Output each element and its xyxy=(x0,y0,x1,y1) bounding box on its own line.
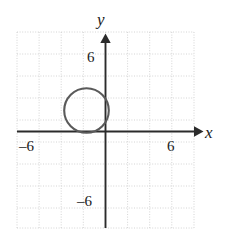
coordinate-plane xyxy=(0,0,225,237)
x-tick-label-negative-six: –6 xyxy=(19,139,34,154)
y-tick-label-positive-six: 6 xyxy=(87,50,95,65)
plotted-circle xyxy=(64,88,109,133)
y-axis-arrowhead xyxy=(100,34,110,44)
y-tick-label-negative-six: –6 xyxy=(77,194,92,209)
x-axis-label: x xyxy=(205,124,213,141)
x-axis-arrowhead xyxy=(194,126,204,136)
x-tick-label-positive-six: 6 xyxy=(167,139,175,154)
graph-figure: y x 6 –6 –6 6 xyxy=(0,0,225,237)
x-axis xyxy=(17,126,204,136)
y-axis-label: y xyxy=(97,11,105,28)
